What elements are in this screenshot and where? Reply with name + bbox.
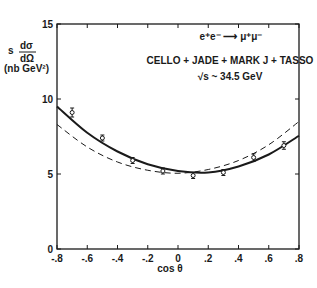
y-tick-label: 5 [47, 169, 53, 180]
data-point [252, 156, 256, 160]
x-tick-label: .8 [295, 253, 304, 264]
y-tick-label: 10 [42, 94, 54, 105]
x-tick-label: -.4 [112, 253, 124, 264]
x-tick-label: -.2 [142, 253, 154, 264]
xlabel: cos θ [157, 263, 182, 274]
y-tick-label: 0 [47, 244, 53, 255]
annotation-experiments: CELLO + JADE + MARK J + TASSO [147, 55, 314, 66]
ylabel-numerator: dσ [20, 40, 33, 51]
x-tick-label: -.6 [81, 253, 93, 264]
x-tick-label: .4 [234, 253, 243, 264]
data-point [282, 144, 286, 148]
ylabel-units: (nb GeV²) [4, 63, 49, 74]
fit-curve-solid [57, 107, 299, 173]
chart: -.8-.6-.4-.20.2.4.6.8051015 s dσ dΩ (nb … [0, 0, 317, 288]
data-point [100, 136, 104, 140]
y-tick-label: 15 [42, 19, 54, 30]
x-tick-label: .6 [265, 253, 274, 264]
data-point [70, 111, 74, 115]
annotation-reaction: e⁺e⁻ ⟶ μ⁺μ⁻ [200, 31, 263, 42]
ylabel-prefix: s [8, 45, 14, 56]
data-point [161, 169, 165, 173]
data-point [131, 159, 135, 163]
data-point [191, 174, 195, 178]
annotation-energy: √s ~ 34.5 GeV [198, 71, 263, 82]
data-point [221, 171, 225, 175]
qed-curve-dashed [57, 122, 299, 174]
x-tick-label: .2 [204, 253, 213, 264]
